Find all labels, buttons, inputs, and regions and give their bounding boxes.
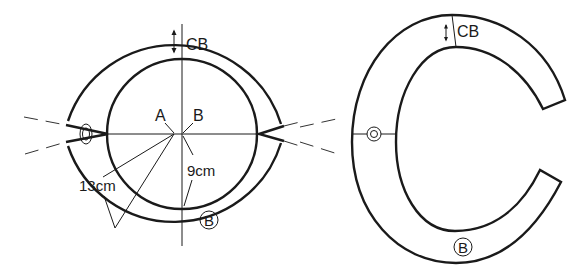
leader-9cm-upper [183, 136, 193, 155]
dash-line-right-lower [284, 141, 300, 146]
dash-line-left-lower [25, 142, 66, 154]
circled-b-mark-right: B [454, 238, 472, 256]
point-b-label: B [193, 107, 204, 124]
outer-radius-label: 13cm [79, 177, 116, 194]
cb-arrow-icon [172, 30, 177, 54]
point-a-label: A [155, 107, 166, 124]
circled-b-mark: B [200, 211, 218, 229]
right-figure: CB B [300, 15, 565, 263]
radius-line-13cm-2 [103, 134, 174, 177]
cb-reference-line [452, 15, 456, 47]
dash-line-c-upper [300, 118, 341, 127]
leader-b [183, 123, 193, 133]
dash-line-c-lower [300, 142, 341, 155]
dash-line-left-upper [24, 117, 66, 125]
cb-label-right: CB [457, 23, 479, 40]
cb-label: CB [186, 36, 208, 53]
leader-a [165, 123, 174, 133]
circled-b-text: B [204, 212, 214, 229]
double-circle-mark-icon-right [367, 127, 381, 141]
dash-line-right-upper [284, 122, 300, 126]
diagram-canvas: CB A B 9cm 13cm B [0, 0, 581, 279]
leader-9cm-lower [184, 180, 192, 206]
left-figure: CB A B 9cm 13cm B [24, 24, 300, 246]
circled-b-text-right: B [458, 239, 468, 256]
cb-arrow-icon-right [444, 24, 448, 42]
inner-radius-label: 9cm [187, 162, 215, 179]
right-notch [259, 126, 284, 141]
c-shape-outline [352, 15, 565, 263]
double-circle-mark-icon [80, 124, 92, 144]
